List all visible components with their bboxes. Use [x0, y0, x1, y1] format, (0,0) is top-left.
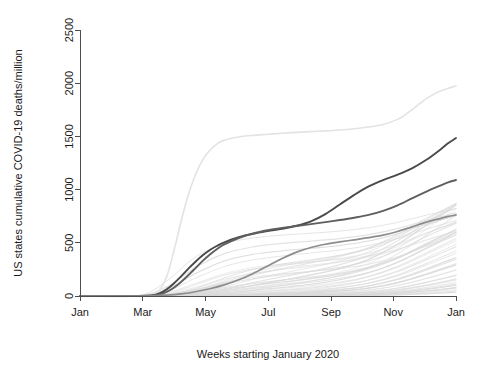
- y-tick-label: 2500: [63, 18, 75, 42]
- x-tick-label: May: [195, 306, 216, 318]
- background-series-line: [80, 232, 456, 296]
- x-tick-label: Mar: [133, 306, 152, 318]
- highlighted-series-layer: [80, 86, 456, 296]
- chart-figure: 05001000150020002500JanMarMayJulSepNovJa…: [0, 0, 480, 383]
- background-series-line: [80, 231, 456, 296]
- x-tick-label: Jan: [447, 306, 465, 318]
- x-axis-title: Weeks starting January 2020: [197, 348, 339, 360]
- x-tick-label: Jan: [71, 306, 89, 318]
- y-axis-title: US states cumulative COVID-19 deaths/mil…: [12, 49, 24, 276]
- x-tick-label: Sep: [321, 306, 341, 318]
- background-series-layer: [80, 203, 456, 297]
- y-tick-label: 2000: [63, 71, 75, 95]
- x-tick-label: Nov: [383, 306, 403, 318]
- background-series-line: [80, 232, 456, 296]
- background-series-line: [80, 233, 456, 296]
- y-tick-label: 500: [63, 234, 75, 252]
- series-line-highlighted-dark: [80, 138, 456, 296]
- line-chart-svg: 05001000150020002500JanMarMayJulSepNovJa…: [0, 0, 480, 383]
- x-tick-label: Jul: [261, 306, 275, 318]
- series-line-highlighted-light: [80, 86, 456, 296]
- axis-layer: [75, 30, 456, 301]
- y-tick-label: 0: [63, 293, 75, 299]
- y-tick-label: 1000: [63, 177, 75, 201]
- y-tick-label: 1500: [63, 124, 75, 148]
